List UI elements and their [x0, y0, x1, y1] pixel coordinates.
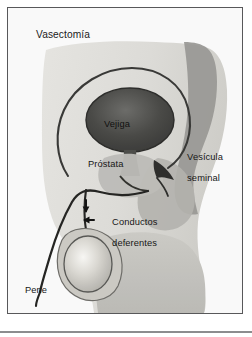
label-seminal-vesicle-line2: seminal: [187, 173, 220, 183]
label-vas-deferens-line2: deferentes: [112, 238, 157, 248]
label-seminal-vesicle: Vesícula seminal: [171, 141, 223, 194]
vasectomy-figure: Vasectomía Vejiga Vesícula seminal Próst…: [0, 0, 252, 337]
label-vas-deferens-line1: Conductos: [112, 217, 157, 227]
label-seminal-vesicle-line1: Vesícula: [187, 152, 223, 162]
label-penis: Pene: [25, 285, 47, 296]
label-vas-deferens: Conductos deferentes: [96, 206, 157, 259]
label-bladder: Vejiga: [104, 119, 130, 130]
bottom-rule: [0, 331, 252, 333]
label-prostate: Próstata: [88, 159, 123, 170]
illustration-frame: Vasectomía Vejiga Vesícula seminal Próst…: [7, 7, 243, 314]
figure-title: Vasectomía: [36, 30, 90, 41]
